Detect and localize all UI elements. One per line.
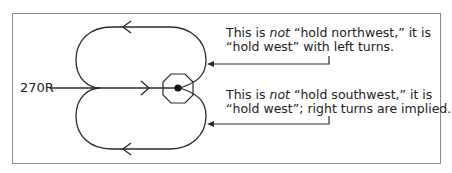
inbound-course-label: 270R bbox=[20, 81, 54, 95]
leader-arrowhead-upper-icon bbox=[207, 61, 214, 67]
leader-arrowhead-lower-icon bbox=[207, 121, 214, 127]
upper-holding-oval bbox=[76, 27, 206, 88]
note-line: “hold west” with left turns. bbox=[226, 40, 431, 54]
holding-fix-dot-icon bbox=[174, 84, 181, 91]
note-line: This is not “hold northwest,” it is bbox=[226, 26, 431, 40]
note-line: “hold west”; right turns are implied. bbox=[226, 102, 451, 116]
note-line: This is not “hold southwest,” it is bbox=[226, 88, 451, 102]
lower-holding-oval bbox=[76, 88, 206, 149]
note-hold-west-left-turns: This is not “hold northwest,” it is “hol… bbox=[226, 26, 431, 54]
leader-line-upper bbox=[212, 56, 329, 64]
note-hold-west-right-turns: This is not “hold southwest,” it is “hol… bbox=[226, 88, 451, 116]
leader-line-lower bbox=[212, 116, 329, 124]
